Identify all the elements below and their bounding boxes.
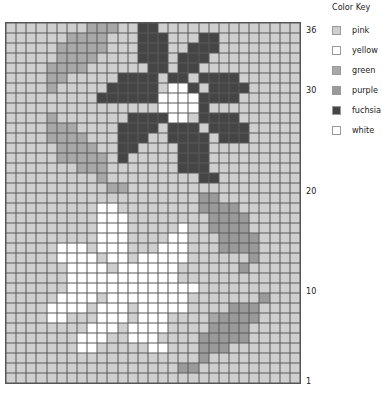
grid-cell — [219, 303, 229, 313]
grid-cell — [16, 143, 26, 153]
grid-cell — [249, 233, 259, 243]
grid-cell — [77, 273, 87, 283]
grid-cell — [290, 203, 300, 213]
grid-cell — [138, 103, 148, 113]
grid-cell — [219, 53, 229, 63]
grid-cell — [36, 233, 46, 243]
grid-cell — [229, 333, 239, 343]
grid-cell — [158, 243, 168, 253]
grid-cell — [270, 153, 280, 163]
grid-cell — [148, 293, 158, 303]
grid-cell — [270, 133, 280, 143]
grid-cell — [47, 323, 57, 333]
grid-cell — [259, 93, 269, 103]
grid-cell — [290, 183, 300, 193]
grid-cell — [16, 233, 26, 243]
grid-cell — [259, 173, 269, 183]
grid-cell — [188, 103, 198, 113]
grid-cell — [36, 133, 46, 143]
grid-cell — [67, 223, 77, 233]
grid-cell — [128, 123, 138, 133]
grid-cell — [219, 293, 229, 303]
grid-cell — [67, 193, 77, 203]
grid-cell — [6, 343, 16, 353]
grid-cell — [128, 43, 138, 53]
grid-cell — [6, 43, 16, 53]
grid-cell — [138, 163, 148, 173]
grid-cell — [138, 43, 148, 53]
grid-cell — [148, 303, 158, 313]
grid-cell — [97, 153, 107, 163]
grid-cell — [107, 333, 117, 343]
grid-cell — [239, 273, 249, 283]
grid-cell — [77, 223, 87, 233]
grid-cell — [249, 103, 259, 113]
grid-cell — [47, 363, 57, 373]
grid-cell — [239, 103, 249, 113]
grid-cell — [128, 233, 138, 243]
grid-cell — [280, 343, 290, 353]
grid-cell — [77, 353, 87, 363]
grid-cell — [77, 233, 87, 243]
grid-cell — [16, 283, 26, 293]
grid-cell — [290, 43, 300, 53]
grid-cell — [270, 43, 280, 53]
grid-cell — [36, 303, 46, 313]
grid-cell — [209, 233, 219, 243]
grid-cell — [158, 123, 168, 133]
grid-cell — [209, 153, 219, 163]
grid-cell — [47, 293, 57, 303]
grid-cell — [36, 193, 46, 203]
grid-cell — [158, 183, 168, 193]
grid-cell — [107, 243, 117, 253]
grid-cell — [209, 43, 219, 53]
grid-cell — [229, 133, 239, 143]
grid-cell — [259, 103, 269, 113]
grid-cell — [118, 273, 128, 283]
grid-cell — [209, 103, 219, 113]
grid-cell — [209, 363, 219, 373]
grid-cell — [87, 323, 97, 333]
grid-cell — [270, 313, 280, 323]
grid-cell — [67, 163, 77, 173]
grid-cell — [6, 373, 16, 383]
grid-cell — [229, 203, 239, 213]
grid-cell — [77, 63, 87, 73]
grid-cell — [229, 193, 239, 203]
grid-cell — [290, 303, 300, 313]
grid-cell — [77, 83, 87, 93]
grid-cell — [290, 293, 300, 303]
grid-cell — [148, 193, 158, 203]
grid-cell — [87, 363, 97, 373]
grid-cell — [168, 233, 178, 243]
grid-cell — [280, 283, 290, 293]
grid-cell — [138, 323, 148, 333]
grid-cell — [6, 263, 16, 273]
grid-cell — [199, 123, 209, 133]
grid-cell — [168, 83, 178, 93]
grid-cell — [280, 293, 290, 303]
grid-cell — [67, 183, 77, 193]
grid-cell — [259, 203, 269, 213]
grid-cell — [280, 143, 290, 153]
grid-cell — [138, 143, 148, 153]
grid-cell — [107, 373, 117, 383]
grid-cell — [239, 353, 249, 363]
grid-cell — [209, 263, 219, 273]
grid-cell — [168, 33, 178, 43]
grid-cell — [47, 73, 57, 83]
grid-cell — [47, 53, 57, 63]
grid-cell — [148, 73, 158, 83]
grid-cell — [87, 133, 97, 143]
grid-cell — [47, 373, 57, 383]
grid-cell — [128, 213, 138, 223]
grid-cell — [199, 143, 209, 153]
grid-cell — [118, 123, 128, 133]
grid-cell — [138, 153, 148, 163]
grid-cell — [26, 353, 36, 363]
grid-cell — [107, 213, 117, 223]
grid-cell — [239, 33, 249, 43]
grid-cell — [36, 23, 46, 33]
grid-cell — [97, 203, 107, 213]
grid-cell — [57, 33, 67, 43]
